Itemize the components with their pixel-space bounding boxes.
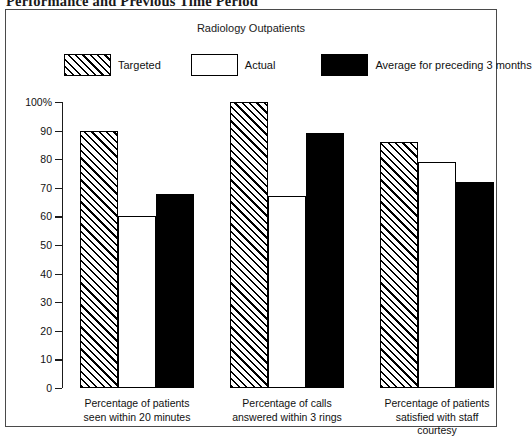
bar-group: Percentage of callsanswered within 3 rin…	[230, 102, 344, 388]
chart-title: Radiology Outpatients	[6, 22, 496, 34]
legend-item-average: Average for preceding 3 months	[321, 54, 531, 76]
y-axis-tick	[55, 216, 62, 217]
legend-label-actual: Actual	[245, 59, 276, 71]
y-axis-tick	[55, 274, 62, 275]
bar-group: Percentage of patientssatisfied with sta…	[380, 102, 494, 388]
bar-targeted[interactable]	[230, 102, 268, 388]
y-axis-tick-label: 70	[40, 182, 52, 194]
bar-group-bars	[380, 102, 494, 388]
x-axis-group-label: Percentage of callsanswered within 3 rin…	[232, 397, 342, 424]
legend-swatch-black-icon	[321, 54, 368, 76]
y-axis-tick	[55, 188, 62, 189]
bar-average[interactable]	[306, 133, 344, 388]
legend-label-targeted: Targeted	[118, 59, 161, 71]
y-axis-tick	[55, 102, 62, 103]
y-axis-tick-label: 10	[40, 353, 52, 365]
x-axis-group-label-line: Percentage of calls	[232, 397, 342, 411]
bar-group: Percentage of patientsseen within 20 min…	[80, 102, 194, 388]
x-axis-group-label: Percentage of patientssatisfied with sta…	[384, 397, 489, 438]
x-axis-group-label-line: satisfied with staff	[384, 411, 489, 425]
chart-legend: Targeted Actual Average for preceding 3 …	[64, 54, 532, 76]
x-axis-group-label: Percentage of patientsseen within 20 min…	[84, 397, 191, 424]
y-axis-tick-label: 30	[40, 296, 52, 308]
y-axis-tick	[55, 131, 62, 132]
x-axis-group-label-line: answered within 3 rings	[232, 411, 342, 425]
bar-actual[interactable]	[268, 196, 306, 388]
y-axis-tick-label: 20	[40, 325, 52, 337]
bar-average[interactable]	[456, 182, 494, 388]
bar-targeted[interactable]	[380, 142, 418, 388]
x-axis-group-label-line: Percentage of patients	[384, 397, 489, 411]
bar-group-bars	[80, 102, 194, 388]
x-axis-group-label-line: Percentage of patients	[84, 397, 191, 411]
y-axis-tick	[55, 388, 62, 389]
y-axis-tick-label: 100%	[25, 96, 52, 108]
figure-frame: Radiology Outpatients Targeted Actual Av…	[5, 9, 497, 427]
y-axis-tick	[55, 302, 62, 303]
legend-swatch-hatched-icon	[64, 54, 111, 76]
y-axis-line	[62, 102, 63, 388]
page-heading: Performance and Previous Time Period	[6, 0, 426, 7]
x-axis-group-label-line: seen within 20 minutes	[84, 411, 191, 425]
y-axis-tick-label: 80	[40, 153, 52, 165]
y-axis-tick-label: 50	[40, 239, 52, 251]
legend-label-average: Average for preceding 3 months	[375, 59, 531, 71]
y-axis-tick	[55, 159, 62, 160]
bar-actual[interactable]	[418, 162, 456, 388]
legend-item-targeted: Targeted	[64, 54, 161, 76]
y-axis-tick-label: 60	[40, 210, 52, 222]
plot-area: 0102030405060708090100% Percentage of pa…	[62, 102, 486, 388]
y-axis-tick	[55, 245, 62, 246]
y-axis-tick-label: 40	[40, 268, 52, 280]
legend-item-actual: Actual	[191, 54, 276, 76]
y-axis-tick	[55, 331, 62, 332]
legend-swatch-white-icon	[191, 54, 238, 76]
bar-targeted[interactable]	[80, 131, 118, 388]
y-axis-tick	[55, 359, 62, 360]
y-axis-tick-label: 90	[40, 125, 52, 137]
x-axis-group-label-line: courtesy	[384, 424, 489, 438]
bar-actual[interactable]	[118, 216, 156, 388]
bar-group-bars	[230, 102, 344, 388]
y-axis-tick-label: 0	[46, 382, 52, 394]
bar-average[interactable]	[156, 194, 194, 388]
